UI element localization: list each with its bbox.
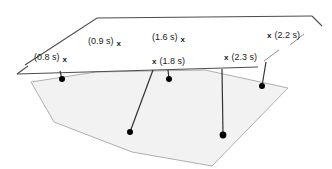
time-label-t-2-3: x(2.3 s) (224, 53, 257, 62)
time-label-t-0-9: (0.9 s)x (88, 37, 121, 46)
x-marker-icon: x (63, 55, 67, 64)
time-value-text: (0.9 s) (88, 36, 114, 46)
time-label-t-1-6: (1.6 s)x (152, 33, 185, 42)
time-value-text: (2.3 s) (231, 52, 257, 62)
x-marker-icon: x (152, 57, 156, 66)
dot-1-8 (127, 129, 133, 135)
dot-2-3 (220, 132, 227, 139)
ray-path-diagram (0, 0, 332, 169)
dot-0-8 (59, 76, 65, 82)
time-value-text: (0.8 s) (34, 52, 60, 62)
dot-2-2 (259, 83, 265, 89)
time-label-t-0-8: (0.8 s)x (34, 53, 67, 62)
x-marker-icon: x (267, 31, 271, 40)
x-marker-icon: x (181, 35, 185, 44)
time-value-text: (2.2 s) (274, 30, 300, 40)
time-label-t-2-2: x(2.2 s) (267, 31, 300, 40)
x-marker-icon: x (224, 53, 228, 62)
time-value-text: (1.8 s) (159, 56, 185, 66)
dot-1-6 (166, 76, 172, 82)
time-label-t-1-8: x(1.8 s) (152, 57, 185, 66)
x-marker-icon: x (117, 39, 121, 48)
time-value-text: (1.6 s) (152, 32, 178, 42)
